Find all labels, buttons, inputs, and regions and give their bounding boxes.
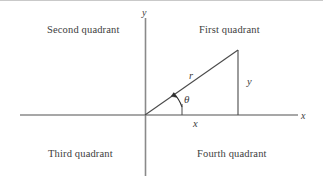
hypotenuse-label-r: r (189, 71, 193, 82)
x-axis-label: x (301, 111, 305, 121)
horizontal-leg-label-x: x (193, 119, 198, 130)
quadrant-label-third: Third quadrant (48, 149, 113, 160)
quadrant-label-fourth: Fourth quadrant (197, 149, 267, 160)
angle-label-theta: θ (184, 94, 189, 105)
quadrant-label-first: First quadrant (199, 25, 260, 36)
y-axis-label: y (142, 8, 146, 18)
quadrant-label-second: Second quadrant (47, 25, 120, 36)
hypotenuse-line (145, 50, 238, 115)
coordinate-plane-figure: Second quadrant First quadrant Third qua… (0, 0, 323, 184)
vertical-leg-label-y: y (247, 77, 252, 88)
